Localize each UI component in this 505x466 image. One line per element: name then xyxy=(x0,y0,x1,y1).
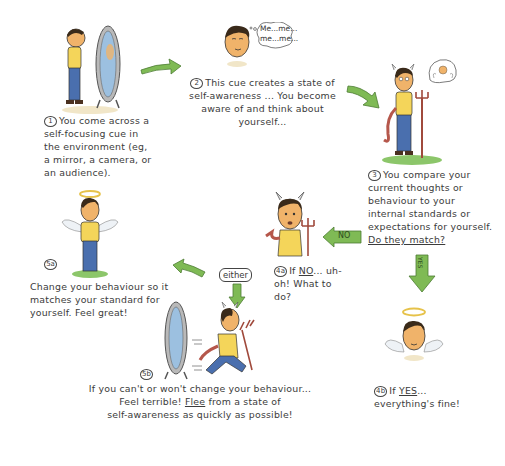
step-5b-caption: If you can't or won't change your behavi… xyxy=(80,382,320,421)
step-2-text: This cue creates a state of self-awarene… xyxy=(189,77,336,127)
step-5a-number: 5a xyxy=(44,259,57,270)
step-2-illustration: Me...me... me...me... xyxy=(223,22,308,74)
worried-devil-icon xyxy=(262,190,322,258)
step-1-caption: 1You come across a self-focusing cue in … xyxy=(44,114,156,179)
step-4a-number: 4a xyxy=(274,266,287,277)
step-5b-illustration xyxy=(160,300,270,380)
step-1-text: You come across a self-focusing cue in t… xyxy=(44,115,151,178)
step-3-illustration xyxy=(382,58,462,166)
step-4b-illustration xyxy=(384,306,444,362)
no-arrow-label: NO xyxy=(338,231,350,240)
step-5a-number-badge: 5a xyxy=(44,252,59,271)
step-5b-line-2-post: from a state of xyxy=(208,396,280,407)
fleeing-from-mirror-icon xyxy=(160,300,270,380)
arrow-up-left-icon xyxy=(172,258,206,278)
step-5b-line-2: Feel terrible! Flee from a state of xyxy=(80,395,320,408)
arrow-right-icon xyxy=(140,58,182,76)
angel-face-icon xyxy=(384,306,444,362)
step-3-caption: 3You compare your current thoughts or be… xyxy=(368,168,493,246)
step-4a-illustration xyxy=(262,190,322,258)
step-3-number: 3 xyxy=(368,170,381,181)
either-badge: either xyxy=(219,268,252,282)
step-4a-prefix: If xyxy=(289,265,295,276)
step-1-number: 1 xyxy=(44,116,57,127)
step-4a-caption: 4aIf NO... uh-oh! What to do? xyxy=(274,264,344,303)
step-4b-prefix: If xyxy=(389,385,395,396)
step-5b-line-2-pre: Feel terrible! xyxy=(119,396,181,407)
yes-arrow: YES xyxy=(408,254,436,294)
step-5a-illustration xyxy=(60,190,120,280)
speech-bubble-text: Me...me... me...me... xyxy=(260,24,292,44)
boy-with-mirror-icon xyxy=(60,22,130,114)
step-4b-number: 4b xyxy=(374,386,387,397)
devil-boy-thinking-icon xyxy=(382,58,462,166)
step-5b-line-3: self-awareness as quickly as possible! xyxy=(80,408,320,421)
step-4b-caption: 4bIf YES... everything's fine! xyxy=(374,384,464,410)
step-2-caption: 2This cue creates a state of self-awaren… xyxy=(180,76,345,128)
step-5b-number: 5b xyxy=(140,369,153,380)
step-5b-flee-keyword: Flee xyxy=(185,396,205,407)
step-1-illustration xyxy=(60,22,130,114)
arrow-down-right-icon xyxy=(346,80,386,110)
step-3-text: You compare your current thoughts or beh… xyxy=(368,169,492,232)
angel-boy-icon xyxy=(60,190,120,280)
step-5b-number-badge: 5b xyxy=(140,362,155,381)
step-4a-keyword: NO xyxy=(299,265,313,276)
yes-arrow-label: YES xyxy=(417,257,424,268)
step-2-number: 2 xyxy=(190,78,203,89)
step-5a-text: Change your behaviour so it matches your… xyxy=(30,281,168,318)
step-4b-keyword: YES xyxy=(399,385,417,396)
step-5a-caption: Change your behaviour so it matches your… xyxy=(30,280,170,319)
no-arrow: NO xyxy=(322,226,362,248)
step-4b-text: ... everything's fine! xyxy=(374,385,460,409)
step-5b-line-1: If you can't or won't change your behavi… xyxy=(80,382,320,395)
step-3-question: Do they match? xyxy=(368,234,445,245)
